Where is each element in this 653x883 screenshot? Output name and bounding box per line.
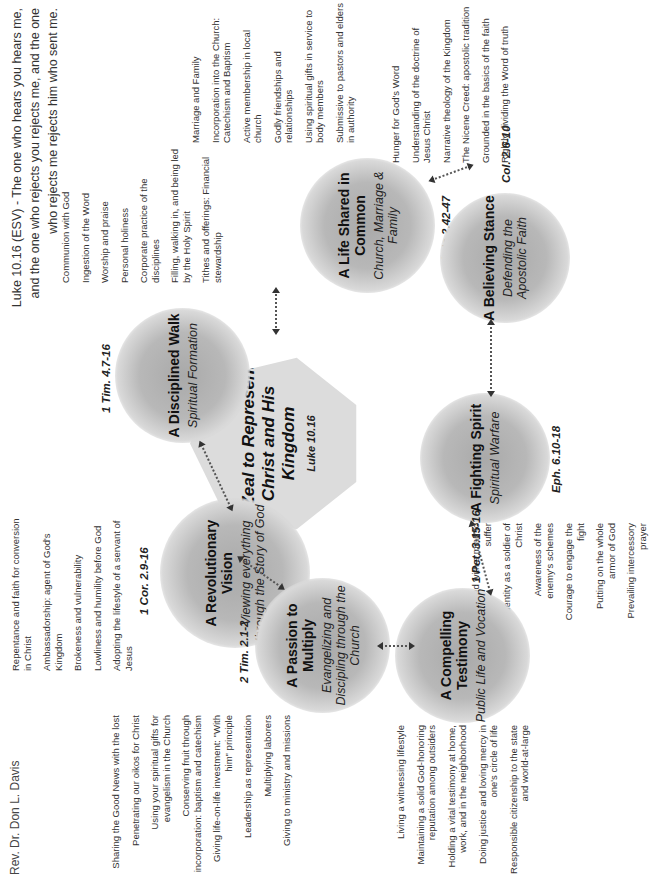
connector-walk-life	[275, 291, 277, 331]
node-passion-multiply: A Passion to Multiply Evangelizing and D…	[255, 578, 390, 713]
ref-disciplined-walk: 1 Tim. 4.7-16	[100, 344, 112, 413]
scripture-quote: Luke 10.16 (ESV) - The one who hears you…	[8, 8, 62, 323]
list-disciplined-walk: Communion with GodIngestion of the WordW…	[60, 143, 231, 283]
connector-spirit-stance	[490, 323, 492, 393]
ref-fighting-spirit: Eph. 6.10-18	[550, 426, 562, 493]
node-life-shared: A Life Shared in Common Church, Marriage…	[300, 158, 435, 293]
list-passion-multiply: Sharing the Good News with the lostPenet…	[110, 715, 301, 875]
node-compelling-testimony: A Compelling Testimony Public Life and V…	[395, 588, 530, 723]
list-believing-stance: Hunger for God's WordUnderstanding of th…	[390, 3, 519, 163]
hub-ref: Luke 10.16	[305, 415, 317, 471]
ref-passion-multiply: 2 Tim. 2.1-2	[238, 621, 250, 683]
list-life-shared: Marriage and FamilyIncorporation into th…	[190, 3, 365, 143]
node-fighting-spirit: A Fighting Spirit Spiritual Warfare	[420, 393, 550, 523]
node-disciplined-walk: A Disciplined Walk Spiritual Formation	[115, 308, 250, 443]
list-compelling-testimony: Living a witnessing lifestyleMaintaining…	[395, 725, 539, 875]
author-credit: Rev. Dr. Don L. Davis	[8, 761, 22, 875]
connector-multiply-testimony	[381, 645, 411, 647]
list-revolutionary-vision: Repentance and faith for conversion in C…	[10, 511, 142, 671]
connector-life-stance	[432, 165, 470, 181]
node-believing-stance: A Believing Stance Defending the Apostol…	[440, 193, 570, 323]
